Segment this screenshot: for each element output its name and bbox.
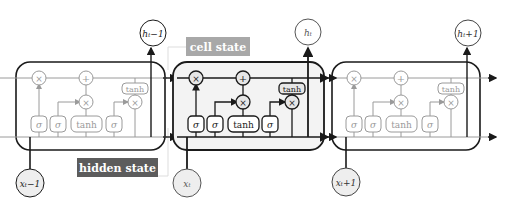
input-gate-sigma: σ: [207, 116, 223, 132]
output-mult-node: ×: [444, 95, 458, 109]
candidate-tanh-box: tanh: [386, 116, 417, 132]
candidate-tanh-box: tanh: [228, 116, 259, 132]
output-gate-sigma: σ: [422, 116, 438, 132]
output-node-h-prev: hₜ−1: [140, 20, 166, 46]
svg-text:cell state: cell state: [190, 41, 246, 54]
svg-text:σ: σ: [370, 120, 377, 130]
cell-tanh-box: tanh: [438, 83, 464, 94]
add-node: +: [79, 71, 93, 85]
input-mult-node: ×: [236, 95, 250, 109]
svg-text:hₜ+1: hₜ+1: [457, 29, 478, 39]
svg-text:xₜ−1: xₜ−1: [20, 179, 41, 189]
lstm-diagram: × + × × tanh σ σ tanh: [0, 0, 505, 209]
candidate-tanh-box: tanh: [71, 116, 102, 132]
svg-text:tanh: tanh: [442, 85, 460, 94]
output-gate-sigma: σ: [262, 116, 278, 132]
output-node-h-next: hₜ+1: [455, 20, 481, 46]
svg-text:σ: σ: [212, 120, 219, 130]
svg-text:×: ×: [397, 98, 405, 108]
lstm-cell-next: × + × × tanh σ σ tanh: [328, 20, 496, 196]
svg-text:xₜ+1: xₜ+1: [336, 178, 357, 188]
svg-text:×: ×: [288, 98, 296, 108]
output-mult-node: ×: [285, 95, 299, 109]
cell-tanh-box: tanh: [122, 83, 148, 94]
cell-state-label: cell state: [186, 37, 250, 56]
svg-text:σ: σ: [267, 120, 274, 130]
add-node: +: [394, 71, 408, 85]
forget-gate-sigma: σ: [188, 116, 204, 132]
svg-text:×: ×: [192, 74, 200, 84]
input-node-x-prev: xₜ−1: [16, 169, 44, 197]
output-mult-node: ×: [128, 95, 142, 109]
input-gate-sigma: σ: [365, 116, 381, 132]
svg-text:hₜ: hₜ: [304, 28, 313, 38]
svg-text:×: ×: [350, 74, 358, 84]
input-mult-node: ×: [79, 95, 93, 109]
svg-text:σ: σ: [36, 120, 43, 130]
input-mult-node: ×: [394, 95, 408, 109]
forget-mult-node: ×: [32, 71, 46, 85]
input-node-x-next: xₜ+1: [332, 168, 360, 196]
svg-text:tanh: tanh: [126, 85, 144, 94]
output-gate-sigma: σ: [106, 116, 122, 132]
add-node: +: [236, 71, 250, 85]
forget-gate-sigma: σ: [346, 116, 362, 132]
forget-mult-node: ×: [189, 71, 203, 85]
svg-text:σ: σ: [193, 120, 200, 130]
svg-text:hₜ−1: hₜ−1: [142, 29, 163, 39]
cell-tanh-box: tanh: [279, 83, 305, 94]
svg-text:tanh: tanh: [283, 85, 301, 94]
svg-text:×: ×: [131, 98, 139, 108]
svg-text:σ: σ: [427, 120, 434, 130]
svg-text:hidden state: hidden state: [79, 162, 156, 175]
input-gate-sigma: σ: [50, 116, 66, 132]
svg-text:σ: σ: [55, 120, 62, 130]
svg-text:+: +: [82, 73, 90, 84]
svg-text:×: ×: [239, 98, 247, 108]
svg-text:+: +: [397, 73, 405, 84]
lstm-diagram-svg: × + × × tanh σ σ tanh: [0, 0, 505, 209]
output-node-h-current: hₜ: [295, 19, 321, 45]
svg-text:×: ×: [82, 98, 90, 108]
svg-text:xₜ: xₜ: [183, 179, 191, 189]
forget-gate-sigma: σ: [31, 116, 47, 132]
svg-text:+: +: [239, 73, 247, 84]
input-node-x-current: xₜ: [173, 169, 201, 197]
svg-text:tanh: tanh: [391, 120, 412, 130]
svg-text:×: ×: [447, 98, 455, 108]
forget-mult-node: ×: [347, 71, 361, 85]
svg-text:×: ×: [35, 74, 43, 84]
svg-text:σ: σ: [351, 120, 358, 130]
svg-text:tanh: tanh: [76, 120, 97, 130]
hidden-state-label: hidden state: [77, 158, 158, 177]
svg-text:σ: σ: [111, 120, 118, 130]
svg-text:tanh: tanh: [233, 120, 254, 130]
